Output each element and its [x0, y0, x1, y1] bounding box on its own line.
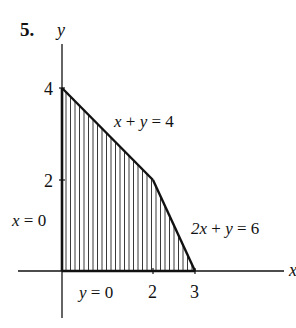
eq4-rhs: 0: [105, 283, 114, 302]
label-x-plus-y-eq-4: x + y = 4: [113, 112, 174, 131]
eq1-plus: +: [126, 112, 136, 131]
eq2-equals: =: [237, 219, 247, 238]
eq4-y: y: [77, 283, 87, 302]
feasible-region-diagram: 5. y x 4 2 2 3 x + y = 4 2x + y = 6 x = …: [0, 0, 296, 328]
label-y-eq-0: y = 0: [77, 283, 113, 302]
eq1-equals: =: [151, 112, 161, 131]
eq3-equals: =: [24, 211, 34, 230]
label-2x-plus-y-eq-6: 2x + y = 6: [191, 219, 259, 238]
eq3-x: x: [11, 211, 20, 230]
eq2-plus: +: [211, 219, 221, 238]
eq1-y: y: [138, 112, 148, 131]
eq2-rhs: 6: [251, 219, 260, 238]
eq3-rhs: 0: [38, 211, 47, 230]
boundary-x-plus-y-eq-4: [62, 88, 153, 180]
problem-number: 5.: [20, 19, 34, 40]
region-hatching: [66, 80, 192, 275]
y-tick-label-2: 2: [44, 171, 53, 191]
eq1-x: x: [113, 112, 122, 131]
x-axis-label: x: [288, 260, 296, 280]
eq2-2x: 2x: [191, 219, 208, 238]
eq4-equals: =: [91, 283, 101, 302]
y-axis-label: y: [55, 20, 65, 40]
eq2-y: y: [223, 219, 233, 238]
x-tick-label-3: 3: [190, 282, 199, 302]
eq1-rhs: 4: [165, 112, 174, 131]
label-x-eq-0: x = 0: [11, 211, 46, 230]
x-tick-label-2: 2: [148, 282, 157, 302]
y-tick-label-4: 4: [44, 79, 53, 99]
